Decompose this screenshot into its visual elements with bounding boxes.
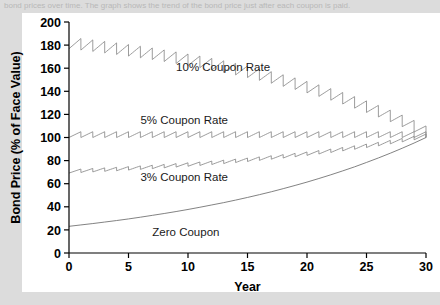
series-label-3: Zero Coupon [152,226,219,238]
y-tick-label: 80 [47,154,61,168]
y-tick-label: 0 [54,247,61,261]
y-tick-label: 140 [40,85,61,99]
y-tick-label: 20 [47,224,61,238]
series-line-3 [69,138,426,227]
series-line-1 [69,132,426,138]
x-tick-label: 10 [181,260,195,274]
y-tick-label: 160 [40,62,61,76]
x-axis-label: Year [234,280,261,294]
x-tick-label: 0 [66,260,73,274]
figure-container: bond prices over time. The graph shows t… [0,0,440,305]
y-axis-label: Bond Price (% of Face Value) [9,51,23,223]
y-tick-label: 100 [40,131,61,145]
series-label-0: 10% Coupon Rate [176,61,270,73]
series-label-2: 3% Coupon Rate [140,171,228,183]
y-tick-label: 200 [40,16,61,30]
x-tick-label: 5 [125,260,132,274]
axes-group: 020406080100120140160180200051015202530 [40,16,433,274]
y-tick-label: 40 [47,200,61,214]
x-tick-label: 25 [360,260,374,274]
bond-price-chart: 020406080100120140160180200051015202530 … [0,0,440,305]
y-tick-label: 60 [47,177,61,191]
series-line-2 [69,134,426,173]
x-tick-label: 30 [419,260,433,274]
series-label-1: 5% Coupon Rate [140,114,228,126]
x-tick-label: 20 [300,260,314,274]
y-tick-label: 180 [40,39,61,53]
x-tick-label: 15 [241,260,255,274]
y-tick-label: 120 [40,108,61,122]
series-line-0 [69,39,426,138]
